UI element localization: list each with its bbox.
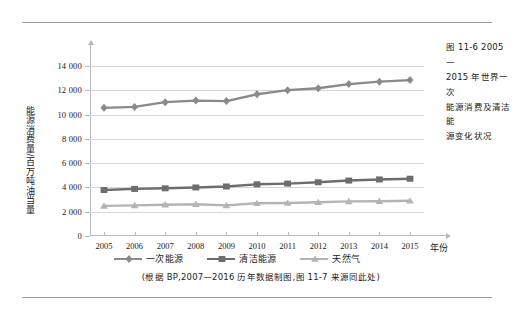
square-marker — [131, 186, 138, 192]
diamond-marker — [345, 80, 352, 88]
chart-legend: 一次能源清洁能源天然气 — [114, 252, 360, 265]
series-3 — [100, 197, 414, 208]
caption-line-3: 能源消费及清洁能 — [446, 100, 512, 130]
figure-page: 能源消费量/百万吨油当量 年份 02 0004 0006 0008 00010 … — [0, 0, 522, 309]
square-marker — [101, 187, 108, 193]
x-axis-tick-label: 2015 — [402, 241, 419, 251]
legend-label: 一次能源 — [146, 252, 183, 265]
legend-marker — [300, 254, 328, 264]
x-axis-tick-label: 2011 — [279, 241, 296, 251]
y-axis-tick-label: 12 000 — [57, 85, 82, 95]
y-axis-tick-label: 10 000 — [57, 110, 82, 120]
diamond-marker — [376, 78, 383, 86]
square-marker — [192, 184, 199, 190]
x-axis-tick-label: 2010 — [249, 241, 266, 251]
caption-line-1: 图 11-6 2005— — [446, 40, 512, 70]
y-axis-tick — [85, 236, 90, 237]
diamond-marker — [162, 98, 169, 106]
square-icon — [217, 255, 227, 265]
square-marker — [345, 178, 352, 184]
legend-item-1[interactable]: 一次能源 — [114, 252, 183, 265]
figure-caption: 图 11-6 2005—2015 年世界一次能源消费及清洁能源变化状况 — [446, 40, 512, 144]
diamond-marker — [131, 103, 138, 111]
x-axis-tick-label: 2009 — [218, 241, 235, 251]
bottom-divider-rule — [22, 297, 492, 298]
diamond-marker — [284, 86, 291, 94]
square-marker — [315, 179, 322, 185]
plot-area: 02 0004 0006 0008 00010 00012 00014 000 … — [90, 54, 424, 236]
y-axis-tick-label: 14 000 — [57, 61, 82, 71]
x-axis-tick-label: 2012 — [310, 241, 327, 251]
legend-marker — [207, 254, 235, 264]
square-marker — [219, 256, 226, 262]
square-marker — [162, 185, 169, 191]
y-axis-tick-label: 6 000 — [62, 158, 82, 168]
diamond-marker — [100, 104, 107, 112]
square-marker — [223, 183, 230, 189]
diamond-icon — [124, 255, 134, 265]
square-marker — [407, 176, 414, 182]
series-2 — [101, 176, 414, 193]
y-axis-tick-label: 8 000 — [62, 134, 82, 144]
chart-figure: 能源消费量/百万吨油当量 年份 02 0004 0006 0008 00010 … — [18, 36, 440, 284]
legend-label: 天然气 — [332, 252, 360, 265]
x-axis-tick-label: 2013 — [340, 241, 357, 251]
x-axis-tick-label: 2006 — [126, 241, 143, 251]
diamond-marker — [253, 90, 260, 98]
x-axis-tick-label: 2007 — [157, 241, 174, 251]
triangle-icon — [310, 255, 320, 265]
x-axis-title: 年份 — [430, 241, 448, 254]
x-axis-tick-label: 2014 — [371, 241, 388, 251]
y-axis-tick-label: 2 000 — [62, 207, 82, 217]
square-marker — [376, 176, 383, 182]
triangle-marker — [312, 255, 320, 261]
data-series-layer — [90, 54, 424, 236]
caption-line-4: 源变化状况 — [446, 129, 512, 144]
x-axis-tick-label: 2008 — [187, 241, 204, 251]
legend-item-2[interactable]: 清洁能源 — [207, 252, 276, 265]
diamond-marker — [315, 84, 322, 92]
diamond-marker — [192, 97, 199, 105]
top-divider-rule — [22, 22, 492, 23]
source-note: (根据 BP,2007—2016 历年数据制图,图 11-7 来源同此处) — [0, 270, 522, 282]
diamond-marker — [406, 76, 413, 84]
y-axis-tick-label: 4 000 — [62, 182, 82, 192]
caption-line-2: 2015 年世界一次 — [446, 70, 512, 100]
y-axis-tick-label: 0 — [78, 231, 82, 241]
diamond-marker — [223, 97, 230, 105]
x-axis-tick-label: 2005 — [96, 241, 113, 251]
legend-label: 清洁能源 — [239, 252, 276, 265]
diamond-marker — [125, 255, 132, 263]
square-marker — [254, 181, 261, 187]
legend-marker — [114, 254, 142, 264]
square-marker — [284, 181, 291, 187]
y-axis-title: 能源消费量/百万吨油当量 — [24, 106, 37, 214]
legend-item-3[interactable]: 天然气 — [300, 252, 360, 265]
series-1 — [100, 76, 413, 112]
